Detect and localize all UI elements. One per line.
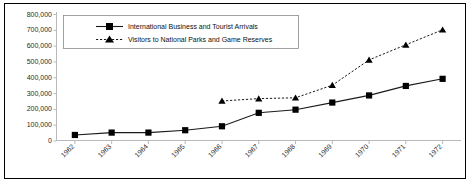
- x-tick-label: 1962: [60, 143, 76, 159]
- data-point-square: [292, 107, 298, 113]
- legend-marker-square: [106, 23, 113, 30]
- x-tick-label: 1972: [427, 143, 443, 159]
- x-tick-label: 1963: [96, 143, 112, 159]
- line-chart: 800,000700,000600,000500,000400,000300,0…: [0, 0, 473, 186]
- data-point-square: [366, 92, 372, 98]
- legend-box: [64, 16, 299, 49]
- y-tick-label: 100,000: [27, 121, 52, 128]
- data-point-square: [403, 83, 409, 89]
- data-point-triangle: [329, 82, 336, 88]
- y-axis-tick-labels: 800,000700,000600,000500,000400,000300,0…: [27, 11, 52, 145]
- x-tick-label: 1970: [354, 143, 370, 159]
- x-tick-label: 1964: [133, 143, 149, 159]
- data-point-triangle: [365, 56, 372, 62]
- data-point-square: [145, 129, 151, 135]
- y-tick-label: 200,000: [27, 105, 52, 112]
- chart-svg: 800,000700,000600,000500,000400,000300,0…: [0, 0, 473, 186]
- data-point-triangle: [439, 26, 446, 32]
- data-point-square: [219, 123, 225, 129]
- series-international-arrivals-markers: [72, 76, 446, 138]
- y-tick-label: 400,000: [27, 74, 52, 81]
- y-tick-label: 500,000: [27, 58, 52, 65]
- data-point-triangle: [402, 41, 409, 47]
- data-point-square: [256, 110, 262, 116]
- y-tick-label: 800,000: [27, 11, 52, 18]
- x-axis-tick-labels: 1962196319641965196619671968196919701971…: [60, 143, 444, 159]
- data-point-square: [72, 132, 78, 138]
- series-international-arrivals-line: [75, 79, 443, 135]
- y-tick-label: 600,000: [27, 42, 52, 49]
- x-tick-label: 1965: [170, 143, 186, 159]
- data-point-square: [329, 99, 335, 105]
- y-tick-label: 700,000: [27, 26, 52, 33]
- data-point-triangle: [292, 94, 299, 100]
- legend-label-national-parks: Visitors to National Parks and Game Rese…: [128, 36, 273, 43]
- data-point-triangle: [218, 98, 225, 104]
- x-tick-label: 1971: [391, 143, 407, 159]
- y-tick-label: 0: [48, 137, 52, 144]
- data-point-triangle: [255, 95, 262, 101]
- x-tick-label: 1966: [207, 143, 223, 159]
- legend-label-international-arrivals: International Business and Tourist Arriv…: [128, 23, 258, 30]
- series-path: [75, 79, 443, 135]
- x-tick-label: 1969: [317, 143, 333, 159]
- x-axis-ticks: [75, 141, 443, 145]
- data-point-square: [440, 76, 446, 82]
- x-tick-label: 1968: [280, 143, 296, 159]
- data-point-square: [109, 129, 115, 135]
- data-point-square: [182, 127, 188, 133]
- y-tick-label: 300,000: [27, 90, 52, 97]
- x-tick-label: 1967: [243, 143, 259, 159]
